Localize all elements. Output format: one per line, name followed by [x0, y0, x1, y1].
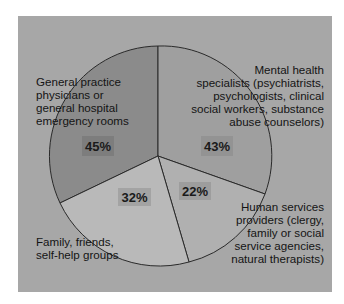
label-general-practice: General practice physicians or general h…: [36, 75, 129, 127]
percent-human-services: 22%: [179, 182, 211, 200]
label-mental-health: Mental health specialists (psychiatrists…: [144, 63, 324, 128]
label-family-friends: Family, friends, self-help groups: [36, 235, 119, 261]
label-human-services: Human services providers (clergy, family…: [164, 200, 324, 265]
percent-family-friends: 32%: [118, 188, 151, 206]
percent-general-practice: 45%: [82, 136, 114, 156]
percent-mental-health: 43%: [201, 136, 233, 156]
